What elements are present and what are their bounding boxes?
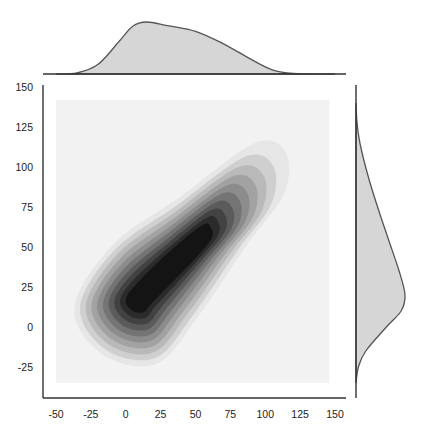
x-tick-label: -25	[83, 408, 98, 420]
marginal-x-area	[56, 22, 335, 74]
y-tick-label: 50	[21, 241, 33, 253]
x-tick-label: 75	[225, 408, 237, 420]
y-axis-ticks: -250255075100125150	[15, 81, 33, 373]
marginal-y-kde	[356, 85, 405, 398]
x-axis-ticks: -50-250255075100125150	[48, 408, 344, 420]
x-tick-label: 125	[291, 408, 309, 420]
x-tick-label: 50	[190, 408, 202, 420]
y-tick-label: 25	[21, 281, 33, 293]
x-tick-label: 25	[155, 408, 167, 420]
x-tick-label: -50	[48, 408, 63, 420]
x-tick-label: 100	[256, 408, 274, 420]
x-tick-label: 150	[326, 408, 344, 420]
y-tick-label: 75	[21, 201, 33, 213]
marginal-x-kde	[43, 22, 346, 74]
y-tick-label: 100	[15, 161, 33, 173]
y-tick-label: 125	[15, 121, 33, 133]
marginal-y-area	[356, 103, 405, 383]
kde-jointplot: -50-250255075100125150 -2502550751001251…	[0, 0, 424, 436]
y-tick-label: 150	[15, 81, 33, 93]
y-tick-label: -25	[18, 361, 33, 373]
x-tick-label: 0	[123, 408, 129, 420]
joint-plot-area: -50-250255075100125150 -2502550751001251…	[15, 81, 346, 420]
y-tick-label: 0	[27, 321, 33, 333]
